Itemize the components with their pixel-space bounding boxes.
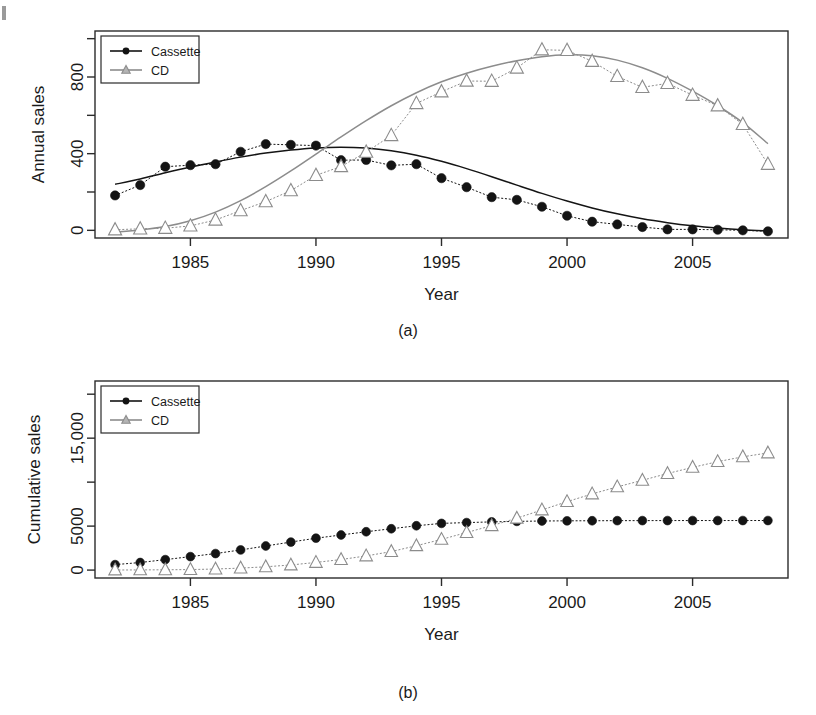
legend-box (101, 36, 199, 83)
data-point-marker (435, 533, 448, 545)
x-axis-tick-label: 2005 (674, 593, 712, 612)
data-point-marker (184, 563, 197, 575)
data-point-marker (636, 80, 649, 92)
data-point-marker (638, 222, 647, 231)
data-point-marker (412, 160, 421, 169)
data-point-marker (109, 223, 122, 235)
data-point-marker (763, 227, 772, 236)
data-point-marker (412, 521, 421, 530)
x-axis-tick-label: 2000 (548, 253, 586, 272)
data-point-marker (487, 193, 496, 202)
data-point-marker (535, 43, 548, 55)
legend-marker-circle-icon (123, 48, 130, 55)
data-point-marker (713, 516, 722, 525)
figure-container: 198519901995200020050400800YearAnnual sa… (0, 0, 816, 715)
legend-entry-label: CD (151, 414, 169, 428)
data-point-marker (134, 563, 147, 575)
data-point-marker (234, 561, 247, 573)
y-axis-tick-label: 5000 (68, 507, 87, 545)
data-point-marker (563, 516, 572, 525)
data-point-marker (688, 516, 697, 525)
panel-b: 198519901995200020050500015,000YearCumul… (0, 350, 816, 715)
data-point-marker (284, 184, 297, 196)
panel-a-plot: 198519901995200020050400800YearAnnual sa… (0, 0, 816, 355)
data-point-marker (362, 527, 371, 536)
y-axis-title: Annual sales (29, 86, 48, 183)
data-point-marker (560, 43, 573, 55)
data-point-marker (588, 217, 597, 226)
data-point-marker (261, 139, 270, 148)
data-point-marker (460, 526, 473, 538)
data-point-marker (312, 534, 321, 543)
data-point-marker (161, 162, 170, 171)
data-point-marker (762, 446, 775, 458)
data-point-marker (588, 516, 597, 525)
data-point-marker (311, 141, 320, 150)
y-axis-tick-label: 0 (68, 226, 87, 235)
x-axis-tick-label: 2005 (674, 253, 712, 272)
data-point-marker (485, 74, 498, 86)
data-point-marker (688, 225, 697, 234)
y-axis-tick-label: 0 (68, 565, 87, 574)
legend-entry-label: CD (151, 64, 169, 78)
data-point-marker (613, 220, 622, 229)
x-axis-tick-label: 2000 (548, 593, 586, 612)
x-axis-tick-label: 1985 (171, 593, 209, 612)
data-point-marker (435, 85, 448, 97)
y-axis-tick-label: 15,000 (68, 412, 87, 464)
legend-entry-label: Cassette (151, 45, 200, 59)
data-point-marker (309, 168, 322, 180)
data-point-marker (738, 226, 747, 235)
data-point-marker (611, 69, 624, 81)
panel-a: 198519901995200020050400800YearAnnual sa… (0, 0, 816, 355)
data-point-marker (764, 516, 773, 525)
data-point-marker (286, 140, 295, 149)
data-point-marker (387, 524, 396, 533)
legend-box (101, 386, 199, 433)
data-point-marker (512, 195, 521, 204)
x-axis-tick-label: 1995 (423, 253, 461, 272)
data-point-marker (437, 174, 446, 183)
series-dotted-line (115, 50, 768, 230)
data-point-marker (661, 76, 674, 88)
data-point-marker (259, 560, 272, 572)
data-point-marker (335, 553, 348, 565)
data-point-marker (211, 549, 220, 558)
y-axis-tick-label: 400 (68, 139, 87, 167)
data-point-marker (186, 552, 195, 561)
data-point-marker (738, 516, 747, 525)
data-point-marker (636, 473, 649, 485)
data-point-marker (686, 461, 699, 473)
data-point-marker (537, 202, 546, 211)
data-point-marker (562, 211, 571, 220)
data-point-marker (234, 203, 247, 215)
data-point-marker (510, 61, 523, 73)
panel-b-plot: 198519901995200020050500015,000YearCumul… (0, 350, 816, 715)
data-point-marker (460, 74, 473, 86)
data-point-marker (209, 562, 222, 574)
data-point-marker (661, 467, 674, 479)
data-point-marker (259, 194, 272, 206)
y-axis-tick-label: 800 (68, 63, 87, 91)
data-point-marker (462, 183, 471, 192)
data-point-marker (261, 542, 270, 551)
data-point-marker (286, 538, 295, 547)
panel-b-label: (b) (0, 684, 816, 702)
data-point-marker (337, 531, 346, 540)
data-point-marker (186, 161, 195, 170)
data-point-marker (437, 519, 446, 528)
x-axis-tick-label: 1990 (297, 253, 335, 272)
legend-entry-label: Cassette (151, 395, 200, 409)
x-axis-tick-label: 1985 (171, 253, 209, 272)
data-point-marker (761, 157, 774, 169)
data-point-marker (663, 516, 672, 525)
data-point-marker (711, 99, 724, 111)
data-point-marker (136, 181, 145, 190)
x-axis-tick-label: 1990 (297, 593, 335, 612)
x-axis-title: Year (424, 285, 459, 304)
data-point-marker (360, 145, 373, 157)
y-axis-title: Cumulative sales (25, 415, 44, 544)
panel-a-label: (a) (0, 322, 816, 340)
data-point-marker (613, 516, 622, 525)
data-point-marker (387, 161, 396, 170)
